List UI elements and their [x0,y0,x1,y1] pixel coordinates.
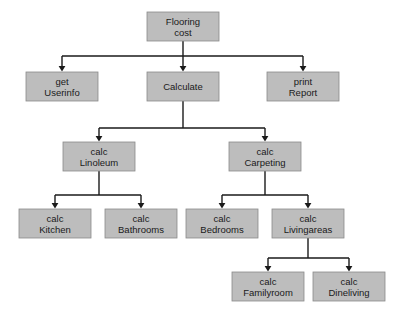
node-flooring-cost[interactable]: Flooringcost [147,12,219,41]
node-calc-livingareas[interactable]: calcLivingareas [272,209,344,238]
arrow-head-icon [52,203,59,209]
node-calc-bathrooms[interactable]: calcBathrooms [105,209,177,238]
node-label-line2: Bedrooms [200,224,244,235]
node-label-line2: Kitchen [39,224,71,235]
arrow-head-icon [219,203,226,209]
node-label-line1: calc [341,276,358,287]
connector-group [52,171,145,209]
connector-group [59,41,307,72]
connector-group [96,101,269,142]
node-calc-dineliving[interactable]: calcDineliving [313,272,385,301]
arrow-head-icon [59,66,66,72]
arrow-head-icon [262,136,269,142]
node-label-line2: Livingareas [284,224,333,235]
node-calc-carpeting[interactable]: calcCarpeting [229,142,301,171]
connector-group [265,238,353,272]
node-label-line1: calc [300,213,317,224]
node-calc-bedrooms[interactable]: calcBedrooms [186,209,258,238]
arrow-head-icon [300,66,307,72]
node-calc-linoleum[interactable]: calcLinoleum [63,142,135,171]
node-calc-kitchen[interactable]: calcKitchen [19,209,91,238]
connector-group [219,171,312,209]
node-label-line1: print [294,76,313,87]
arrow-head-icon [265,266,272,272]
node-label-line2: Bathrooms [118,224,164,235]
node-label-line2: Linoleum [80,157,119,168]
node-label-line2: Familyroom [243,287,293,298]
arrow-head-icon [96,136,103,142]
structure-chart-diagram: FlooringcostgetUserinfoCalculateprintRep… [0,0,400,317]
node-label-line2: Dineliving [328,287,369,298]
node-print-report[interactable]: printReport [267,72,339,101]
node-label-line2: Carpeting [244,157,285,168]
node-label-line1: calc [47,213,64,224]
node-label-line2: Userinfo [44,87,79,98]
node-calculate[interactable]: Calculate [147,72,219,101]
node-label-line2: cost [174,27,192,38]
node-label-line1: calc [257,146,274,157]
node-get-userinfo[interactable]: getUserinfo [26,72,98,101]
node-label-line1: calc [214,213,231,224]
arrow-head-icon [180,66,187,72]
node-label-line1: Flooring [166,16,200,27]
arrow-head-icon [346,266,353,272]
node-label-line1: calc [133,213,150,224]
arrow-head-icon [305,203,312,209]
node-label-line1: calc [91,146,108,157]
structure-chart-canvas: FlooringcostgetUserinfoCalculateprintRep… [0,0,400,317]
node-label-line1: Calculate [163,81,203,92]
node-label-line2: Report [289,87,318,98]
node-calc-familyroom[interactable]: calcFamilyroom [232,272,304,301]
node-label-line1: calc [260,276,277,287]
node-label-line1: get [55,76,69,87]
arrow-head-icon [138,203,145,209]
